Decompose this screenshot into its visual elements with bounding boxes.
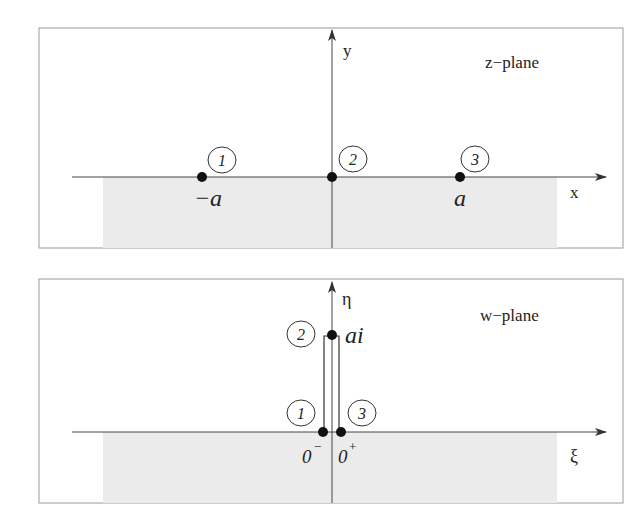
w-point-3 bbox=[336, 427, 346, 437]
w-plane-title: w−plane bbox=[480, 306, 539, 325]
z-plane-y-axis-label: y bbox=[343, 41, 352, 60]
z-point-1 bbox=[197, 172, 207, 182]
svg-text:0: 0 bbox=[302, 446, 312, 467]
svg-text:−: − bbox=[314, 439, 321, 454]
svg-text:3: 3 bbox=[470, 151, 479, 168]
z-plane-lower-half-shading bbox=[103, 177, 557, 248]
w-point-2 bbox=[327, 330, 337, 340]
z-point-3 bbox=[455, 172, 465, 182]
w-plane-eta-axis-label: η bbox=[342, 289, 351, 309]
w-plane-xi-axis-label: ξ bbox=[570, 446, 578, 466]
w-plane-panel: ξ η w−plane 1 2 3 ai 0 − 0 + bbox=[39, 279, 623, 503]
w-plane-lower-half-shading bbox=[103, 432, 557, 503]
svg-text:1: 1 bbox=[297, 405, 305, 422]
z-point-3-label: a bbox=[454, 185, 466, 211]
w-point-2-label: ai bbox=[345, 322, 364, 348]
conformal-map-diagram: x y z−plane 1 2 3 −a a ξ η w−plan bbox=[0, 0, 644, 527]
svg-text:1: 1 bbox=[218, 152, 226, 169]
z-plane-panel: x y z−plane 1 2 3 −a a bbox=[39, 28, 623, 248]
z-plane-title: z−plane bbox=[485, 53, 539, 72]
svg-text:3: 3 bbox=[357, 405, 366, 422]
svg-text:2: 2 bbox=[297, 326, 305, 343]
w-point-1 bbox=[318, 427, 328, 437]
svg-text:0: 0 bbox=[338, 446, 348, 467]
z-point-1-label: −a bbox=[194, 185, 222, 211]
z-point-2 bbox=[327, 172, 337, 182]
z-plane-x-axis-label: x bbox=[570, 183, 579, 202]
svg-text:2: 2 bbox=[349, 151, 357, 168]
svg-text:+: + bbox=[349, 439, 356, 454]
